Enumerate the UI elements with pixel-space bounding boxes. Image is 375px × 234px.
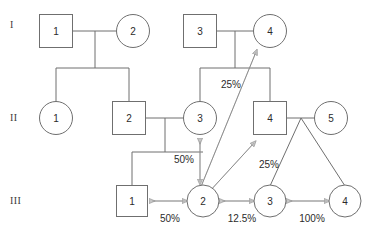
generation-label-III: III: [10, 195, 21, 206]
node-III-3-label: 3: [267, 196, 273, 207]
percent-label-III2-III3: 12.5%: [228, 213, 256, 224]
node-III-2[interactable]: 2: [187, 185, 219, 217]
node-I-4[interactable]: 4: [254, 15, 287, 48]
node-III-4-label: 4: [342, 196, 348, 207]
node-II-1[interactable]: 1: [40, 102, 73, 135]
pedigree-nodes: 1 2 3 4 1 2: [40, 15, 362, 218]
node-II-4[interactable]: 4: [254, 102, 287, 135]
node-II-1-label: 1: [53, 113, 59, 124]
pedigree-canvas: I II III: [0, 0, 375, 234]
node-II-4-label: 4: [267, 113, 273, 124]
node-I-2-label: 2: [130, 26, 136, 37]
node-I-1-label: 1: [53, 26, 59, 37]
node-I-1[interactable]: 1: [40, 15, 73, 48]
node-II-5[interactable]: 5: [315, 102, 348, 135]
pedigree-diagram: I II III: [0, 0, 375, 234]
percent-label-III2-I4: 25%: [221, 79, 241, 90]
generation-label-II: II: [10, 112, 17, 123]
node-III-3[interactable]: 3: [254, 185, 286, 217]
generation-labels: I II III: [10, 19, 21, 206]
percent-label-III3-III4: 100%: [299, 213, 325, 224]
node-II-2[interactable]: 2: [113, 102, 146, 135]
node-III-1[interactable]: 1: [117, 186, 148, 217]
percent-label-II3-III2: 50%: [174, 154, 194, 165]
percent-label-III2-II4: 25%: [259, 159, 279, 170]
node-I-3[interactable]: 3: [184, 15, 217, 48]
generation-label-I: I: [10, 19, 14, 30]
node-III-2-label: 2: [200, 196, 206, 207]
node-I-2[interactable]: 2: [117, 15, 150, 48]
node-II-5-label: 5: [328, 113, 334, 124]
node-II-2-label: 2: [126, 113, 132, 124]
relationship-percentage-labels: 50% 12.5% 100% 50% 25% 25%: [160, 79, 325, 224]
node-III-4[interactable]: 4: [329, 185, 361, 217]
node-I-3-label: 3: [197, 26, 203, 37]
node-II-3[interactable]: 3: [184, 102, 217, 135]
node-II-3-label: 3: [197, 113, 203, 124]
percent-label-III1-III2: 50%: [160, 213, 180, 224]
node-III-1-label: 1: [129, 196, 135, 207]
node-I-4-label: 4: [267, 26, 273, 37]
relationship-arrows: [152, 52, 327, 201]
